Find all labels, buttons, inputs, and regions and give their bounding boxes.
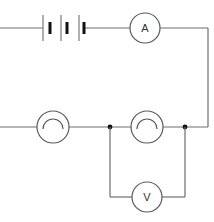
circuit-svg: A V (0, 0, 214, 222)
voltmeter-label: V (143, 191, 151, 203)
battery-icon (43, 15, 86, 41)
voltmeter-icon: V (132, 182, 162, 212)
lamp-2-icon (131, 111, 163, 143)
ammeter-icon: A (130, 13, 160, 43)
lamp-1-icon (37, 111, 69, 143)
circuit-diagram: A V (0, 0, 214, 222)
ammeter-label: A (141, 22, 149, 34)
